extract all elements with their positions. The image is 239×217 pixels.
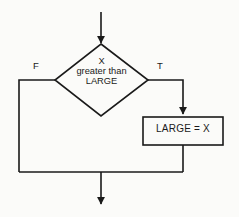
false-branch-path xyxy=(19,80,55,172)
true-branch-label: T xyxy=(157,61,163,71)
flowchart-svg xyxy=(0,0,239,217)
false-branch-label: F xyxy=(33,61,39,71)
decision-label-line-3: LARGE xyxy=(55,77,148,87)
decision-label: X greater than LARGE xyxy=(55,57,148,87)
process-label: LARGE = X xyxy=(143,124,223,135)
true-branch-path xyxy=(148,80,183,114)
flowchart-diagram: X greater than LARGE LARGE = X F T xyxy=(0,0,239,217)
